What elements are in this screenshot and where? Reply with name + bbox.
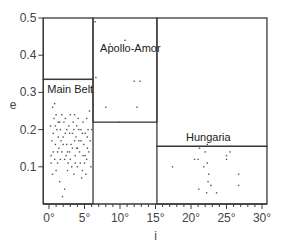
data-point	[52, 174, 53, 175]
data-point	[82, 133, 83, 134]
data-point	[54, 103, 55, 104]
data-point	[66, 129, 67, 130]
empty-region-box	[43, 18, 93, 79]
data-point	[65, 155, 66, 156]
data-point	[77, 166, 78, 167]
data-point	[136, 107, 137, 108]
data-point	[238, 185, 239, 186]
data-point	[139, 81, 140, 82]
data-point	[50, 155, 51, 156]
y-tick-label: 0.5	[20, 11, 37, 25]
y-tick-label: 0.1	[20, 160, 37, 174]
region-label-main-belt: Main Belt	[47, 83, 93, 95]
data-point	[207, 181, 208, 182]
data-point	[85, 133, 86, 134]
y-axis-title: e	[10, 98, 17, 112]
data-point	[70, 159, 71, 160]
region-box-main-belt	[43, 79, 93, 204]
data-point	[70, 144, 71, 145]
data-point	[50, 162, 51, 163]
data-point	[216, 192, 217, 193]
data-point	[72, 121, 73, 122]
data-point	[229, 151, 230, 152]
data-point	[63, 121, 64, 122]
data-point	[61, 114, 62, 115]
data-point	[53, 133, 54, 134]
data-point	[76, 125, 77, 126]
data-point	[63, 144, 64, 145]
data-point	[80, 162, 81, 163]
data-point	[81, 177, 82, 178]
data-point	[63, 136, 64, 137]
data-point	[210, 185, 211, 186]
x-tick-label: 15°	[146, 211, 164, 225]
data-point	[54, 159, 55, 160]
data-point	[194, 159, 195, 160]
data-point	[197, 159, 198, 160]
data-point	[87, 129, 88, 130]
scatter-chart: Main BeltApollo-AmorHungaria0°5°10°15°20…	[0, 0, 283, 247]
data-point	[85, 174, 86, 175]
x-axis-title: i	[154, 229, 157, 243]
data-point	[206, 192, 207, 193]
data-point	[58, 121, 59, 122]
data-point	[58, 136, 59, 137]
data-point	[52, 107, 53, 108]
data-point	[78, 140, 79, 141]
y-tick-label: 0.2	[20, 123, 37, 137]
data-point	[71, 166, 72, 167]
data-point	[60, 159, 61, 160]
data-point	[87, 148, 88, 149]
data-point	[72, 148, 73, 149]
data-point	[203, 166, 204, 167]
data-point	[226, 155, 227, 156]
data-point	[87, 136, 88, 137]
data-point	[50, 125, 51, 126]
data-point	[88, 151, 89, 152]
data-point	[74, 114, 75, 115]
x-tick-label: 0°	[43, 211, 55, 225]
data-point	[75, 162, 76, 163]
data-point	[59, 121, 60, 122]
data-point	[85, 155, 86, 156]
data-point	[57, 162, 58, 163]
data-point	[80, 129, 81, 130]
data-point	[105, 107, 106, 108]
data-point	[119, 121, 120, 122]
data-point	[65, 118, 66, 119]
data-point	[57, 151, 58, 152]
data-point	[70, 114, 71, 115]
data-point	[84, 162, 85, 163]
upper-right-region-box	[157, 18, 267, 146]
data-point	[67, 162, 68, 163]
data-point	[69, 133, 70, 134]
data-point	[55, 125, 56, 126]
x-tick-label: 25°	[217, 211, 235, 225]
data-point	[94, 21, 95, 22]
data-point	[82, 121, 83, 122]
data-point	[89, 140, 90, 141]
data-point	[198, 188, 199, 189]
data-point	[86, 159, 87, 160]
data-point	[56, 129, 57, 130]
data-point	[207, 162, 208, 163]
data-point	[55, 114, 56, 115]
data-point	[67, 170, 68, 171]
data-point	[77, 148, 78, 149]
data-point	[60, 129, 61, 130]
data-point	[73, 174, 74, 175]
data-point	[199, 148, 200, 149]
data-point	[78, 129, 79, 130]
x-tick-label: 10°	[111, 211, 129, 225]
data-point	[238, 174, 239, 175]
data-point	[66, 144, 67, 145]
data-point	[55, 144, 56, 145]
data-point	[72, 133, 73, 134]
data-point	[73, 129, 74, 130]
y-tick-label: 0.3	[20, 85, 37, 99]
data-point	[51, 140, 52, 141]
region-box-apollo-amor	[93, 18, 157, 122]
data-point	[61, 151, 62, 152]
x-tick-label: 5°	[79, 211, 91, 225]
data-point	[134, 81, 135, 82]
